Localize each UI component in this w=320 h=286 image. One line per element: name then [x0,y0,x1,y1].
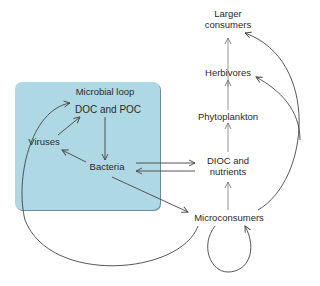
node-larger-line2: consumers [195,19,261,30]
node-larger-line1: Larger [195,8,261,19]
node-dioc-line1: DIOC and [195,155,261,166]
arrow-bacteria-to-micro [112,177,188,212]
node-microconsumers: Microconsumers [188,212,270,223]
node-bacteria: Bacteria [82,161,132,172]
node-doc-poc: DOC and POC [72,104,144,115]
arrow-viruses-to-doc [58,117,80,135]
node-dioc-nutrients: DIOC and nutrients [195,155,261,177]
node-phytoplankton: Phytoplankton [190,111,266,122]
arrow-micro-self-loop [208,226,251,272]
node-dioc-line2: nutrients [195,166,261,177]
node-larger-consumers: Larger consumers [195,8,261,30]
region-title: Microbial loop [65,86,145,97]
node-viruses: Viruses [24,136,64,147]
arrow-micro-to-doc [22,103,198,266]
node-herbivores: Herbivores [195,67,261,78]
arrow-micro-to-herbivores [256,77,300,140]
